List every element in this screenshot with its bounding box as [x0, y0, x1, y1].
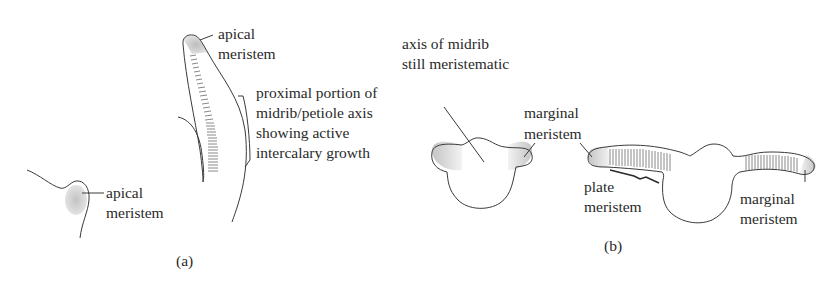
apical-meristem-small-label: apical meristem — [106, 184, 164, 221]
marginal-meristem-left-label: marginal meristem — [524, 104, 583, 142]
cross-section-early-drawing — [432, 107, 535, 208]
marginal-meristem-right-label: marginal meristem — [740, 190, 799, 227]
apical-meristem-tip-label: apical meristem — [218, 25, 276, 62]
axis-of-midrib-label: axis of midrib still meristematic — [402, 35, 509, 72]
panel-a-caption: (a) — [176, 252, 193, 270]
proximal-portion-label: proximal portion of midrib/petiole axis … — [256, 84, 381, 161]
intercalary-growth-hatching — [190, 55, 218, 171]
panel-b-caption: (b) — [604, 237, 622, 255]
small-apex-drawing — [27, 170, 104, 238]
leaf-primordium-drawing — [178, 35, 250, 222]
panel-b: axis of midrib still meristematic margin… — [402, 35, 816, 255]
plate-meristem-label: plate meristem — [584, 178, 642, 215]
leaf-development-diagram: apical meristem — [0, 0, 833, 291]
panel-a: apical meristem — [27, 25, 381, 270]
